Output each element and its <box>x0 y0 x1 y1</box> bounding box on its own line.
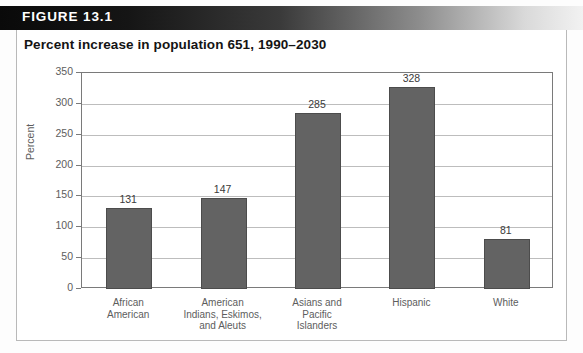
y-tick-label: 300 <box>33 96 73 108</box>
y-tick-label: 250 <box>33 127 73 139</box>
y-tick-label: 0 <box>33 281 73 293</box>
y-tick-mark <box>76 288 81 289</box>
x-category-label: Asians andPacificIslanders <box>264 297 370 332</box>
x-category-label: AmericanIndians, Eskimos,and Aleuts <box>169 297 275 332</box>
x-category-label-line: Asians and <box>264 297 370 309</box>
bar-value-label: 328 <box>381 72 441 84</box>
x-category-label: White <box>453 297 559 309</box>
x-category-label-line: Pacific <box>264 309 370 321</box>
bar <box>295 113 341 289</box>
x-category-label-line: African <box>75 297 181 309</box>
x-category-label-line: American <box>75 309 181 321</box>
bar-value-label: 285 <box>287 98 347 110</box>
bar-value-label: 81 <box>476 224 536 236</box>
y-tick-label: 50 <box>33 250 73 262</box>
y-tick-label: 350 <box>33 65 73 77</box>
y-tick-label: 200 <box>33 158 73 170</box>
x-category-label-line: American <box>169 297 275 309</box>
bar <box>106 208 152 289</box>
x-category-label: AfricanAmerican <box>75 297 181 320</box>
bar <box>389 87 435 289</box>
bar-value-label: 147 <box>193 183 253 195</box>
x-category-label-line: Indians, Eskimos, <box>169 309 275 321</box>
x-category-label: Hispanic <box>358 297 464 309</box>
y-tick-label: 100 <box>33 219 73 231</box>
x-category-label-line: Islanders <box>264 320 370 332</box>
x-category-label-line: and Aleuts <box>169 320 275 332</box>
bar-value-label: 131 <box>98 193 158 205</box>
x-category-label-line: Hispanic <box>358 297 464 309</box>
bar <box>201 198 247 289</box>
y-tick-label: 150 <box>33 188 73 200</box>
bar <box>484 239 530 289</box>
bar-chart: Percent 050100150200250300350 1311472853… <box>0 0 583 353</box>
x-category-label-line: White <box>453 297 559 309</box>
